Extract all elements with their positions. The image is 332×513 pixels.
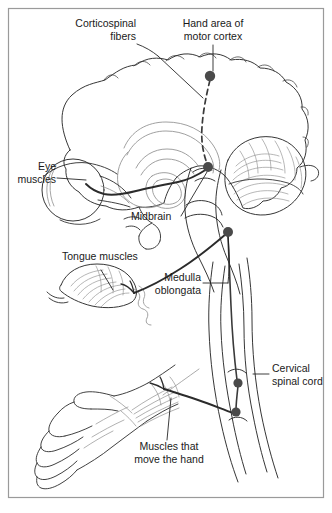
- cervical-lower-node: [231, 407, 240, 416]
- label-hand-area-motor-cortex: Hand area of motor cortex: [168, 17, 258, 42]
- midbrain-node: [203, 162, 213, 172]
- label-medulla-oblongata: Medulla oblongata: [139, 271, 201, 296]
- motor-cortex-node: [205, 71, 215, 81]
- label-muscles-that-move-the-hand: Muscles that move the hand: [122, 440, 216, 465]
- cervical-upper-node: [233, 378, 242, 387]
- anatomy-figure: Corticospinal fibers Hand area of motor …: [0, 0, 332, 513]
- corticospinal-pathway-drawing: [0, 0, 332, 513]
- label-corticospinal-fibers: Corticospinal fibers: [58, 17, 136, 42]
- label-tongue-muscles: Tongue muscles: [62, 250, 152, 263]
- label-cervical-spinal-cord: Cervical spinal cord: [272, 362, 332, 387]
- label-eye-muscles: Eye muscles: [4, 160, 56, 185]
- label-midbrain: Midbrain: [131, 210, 187, 223]
- medulla-node: [223, 227, 233, 237]
- figure-frame: [9, 9, 324, 498]
